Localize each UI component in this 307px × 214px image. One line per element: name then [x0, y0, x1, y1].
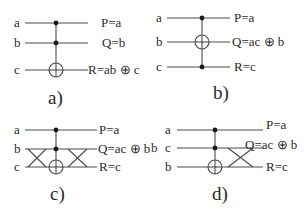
input-label-b: b [165, 159, 172, 174]
output-label-r: R=c [266, 159, 288, 174]
input-label-c: c [165, 140, 171, 155]
input-label-b: b [156, 34, 163, 49]
extra-label-b: b [151, 140, 158, 155]
control-dot-icon [54, 21, 59, 26]
control-dot-icon [54, 41, 59, 46]
output-label-r: R=c [99, 159, 121, 174]
panel-b: a b c P=a Q=ac ⊕ b R=c b) [156, 10, 284, 104]
xor-target-icon [49, 160, 63, 174]
output-label-p: P=a [234, 10, 255, 25]
xor-target-icon [49, 63, 63, 77]
panel-caption: d) [212, 183, 228, 205]
output-label-q: Q=ac ⊕ b [98, 141, 150, 156]
input-label-b: b [14, 35, 21, 50]
control-dot-icon [54, 147, 59, 152]
xor-target-icon [195, 35, 209, 49]
output-label-p: P=a [101, 15, 122, 30]
input-label-a: a [156, 10, 162, 25]
input-label-c: c [156, 59, 162, 74]
panel-caption: a) [48, 87, 63, 109]
input-label-a: a [14, 122, 20, 137]
output-label-r: R=c [234, 59, 256, 74]
control-dot-icon [213, 146, 218, 151]
control-dot-icon [200, 16, 205, 21]
input-label-b: b [14, 141, 21, 156]
output-label-q: Q=b [102, 35, 125, 50]
xor-target-icon [208, 160, 222, 174]
panel-caption: c) [50, 183, 65, 205]
output-label-r: R=ab ⊕ c [88, 62, 140, 77]
panel-c: a b c P=a Q=ac ⊕ b R=c c) [14, 122, 150, 205]
input-label-a: a [165, 122, 171, 137]
swap-cross-icon [68, 149, 87, 167]
output-label-p: P=a [99, 122, 120, 137]
swap-cross-icon [28, 149, 46, 167]
output-label-p: P=a [266, 117, 287, 132]
input-label-c: c [14, 62, 20, 77]
control-dot-icon [54, 128, 59, 133]
panel-caption: b) [213, 82, 229, 104]
control-dot-icon [213, 128, 218, 133]
output-label-q: Q=ac ⊕ b [232, 34, 284, 49]
panel-d: b a c b P=a Q=ac ⊕ b R=c d) [151, 117, 297, 205]
control-dot-icon [200, 65, 205, 70]
panel-a: a b c P=a Q=b R=ab ⊕ c a) [14, 15, 140, 109]
output-label-q: Q=ac ⊕ b [245, 137, 297, 152]
toffoli-gate-diagrams: a b c P=a Q=b R=ab ⊕ c a) a b c [0, 0, 307, 214]
input-label-a: a [14, 15, 20, 30]
input-label-c: c [14, 159, 20, 174]
